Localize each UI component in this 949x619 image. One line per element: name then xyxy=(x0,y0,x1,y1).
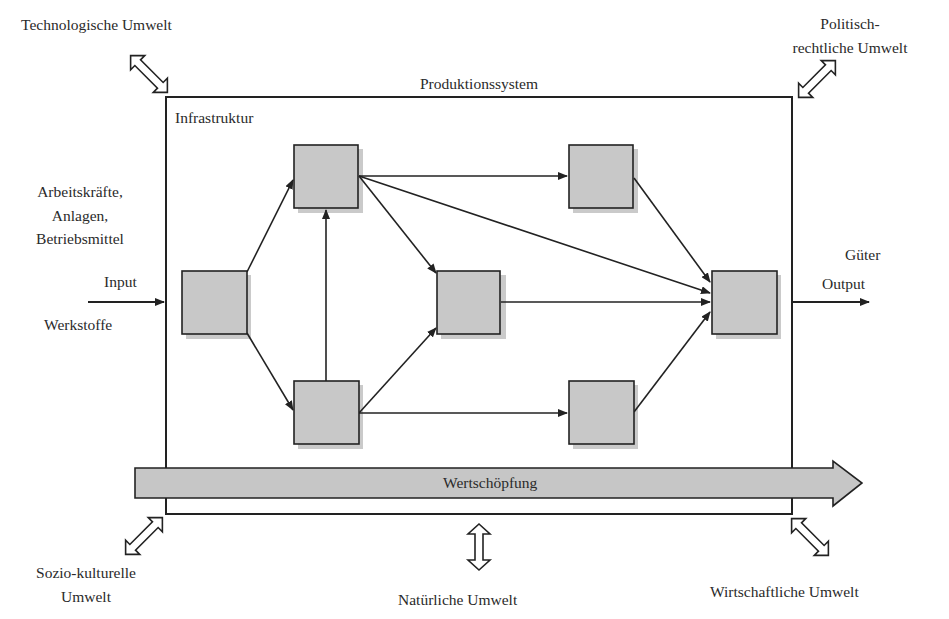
input-resources-line3: Betriebsmittel xyxy=(10,229,150,248)
process-nodes xyxy=(182,145,777,444)
input-resources-line2: Anlagen, xyxy=(10,206,150,225)
double-arrow-technological-icon xyxy=(124,49,175,100)
double-arrow-natural-icon xyxy=(468,524,490,570)
node-output xyxy=(712,271,777,334)
label-natural-environment: Natürliche Umwelt xyxy=(398,590,517,609)
value-chain-label: Wertschöpfung xyxy=(443,473,537,492)
double-arrow-economic-icon xyxy=(785,512,836,563)
double-arrow-political-icon xyxy=(792,54,843,105)
label-sociocultural-line1: Sozio-kulturelle xyxy=(16,563,156,582)
label-sociocultural-line2: Umwelt xyxy=(16,587,156,606)
label-technological-environment: Technologische Umwelt xyxy=(21,15,172,34)
node-lower xyxy=(294,381,359,444)
label-political-line2: rechtliche Umwelt xyxy=(760,38,940,57)
label-economic-environment: Wirtschaftliche Umwelt xyxy=(710,582,859,601)
double-arrow-sociocultural-icon xyxy=(119,511,170,562)
infrastructure-label: Infrastruktur xyxy=(175,108,253,127)
node-lower-right xyxy=(569,381,634,444)
node-upper xyxy=(294,145,358,208)
node-center xyxy=(437,271,500,334)
node-input xyxy=(182,271,247,334)
input-materials-label: Werkstoffe xyxy=(44,315,112,334)
output-label: Output xyxy=(822,274,865,293)
input-label: Input xyxy=(104,272,137,291)
label-political-line1: Politisch- xyxy=(800,14,900,33)
input-resources-line1: Arbeitskräfte, xyxy=(10,182,150,201)
node-upper-right xyxy=(569,145,633,208)
system-title: Produktionssystem xyxy=(420,74,538,93)
output-goods-label: Güter xyxy=(845,245,880,264)
